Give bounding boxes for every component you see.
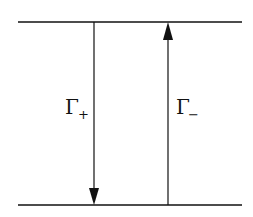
gamma-plus-subscript: +: [78, 107, 89, 122]
gamma-minus-subscript: −: [188, 107, 199, 122]
transition-gamma-plus: Γ +: [65, 22, 99, 205]
up-arrowhead-icon: [163, 22, 173, 40]
energy-level-diagram: Γ + Γ −: [0, 0, 253, 217]
down-arrowhead-icon: [89, 188, 99, 205]
transition-gamma-minus: Γ −: [163, 22, 199, 205]
gamma-plus-label: Γ: [65, 95, 79, 119]
